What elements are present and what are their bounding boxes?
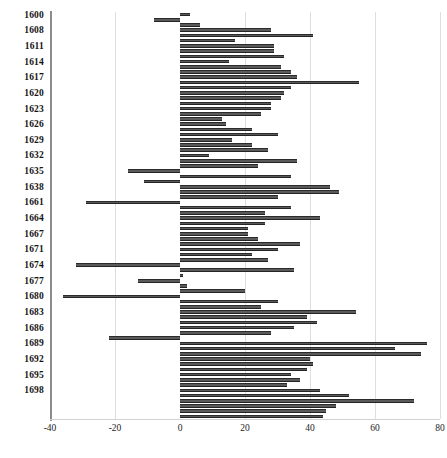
bar [180, 258, 268, 262]
bar [180, 13, 190, 17]
bar [180, 378, 300, 382]
plot-area [50, 12, 440, 419]
bar [180, 185, 330, 189]
y-tick-label-1638: 1638 [24, 182, 44, 192]
y-tick-label-1689: 1689 [24, 338, 44, 348]
x-tick-label--20: -20 [109, 423, 122, 433]
bar [180, 326, 294, 330]
bar [138, 279, 180, 283]
bar [180, 117, 222, 121]
bar [180, 112, 261, 116]
bar [180, 96, 281, 100]
y-tick-label-1695: 1695 [24, 370, 44, 380]
bar [180, 342, 427, 346]
bar [180, 190, 339, 194]
y-tick-label-1686: 1686 [24, 323, 44, 333]
x-tick-label--40: -40 [44, 423, 57, 433]
bar [180, 164, 258, 168]
y-tick-label-1617: 1617 [24, 72, 44, 82]
gridline-80 [440, 12, 441, 419]
bar [180, 305, 261, 309]
bar [180, 91, 284, 95]
bar [180, 274, 183, 278]
bar [180, 222, 265, 226]
bar [180, 122, 226, 126]
bar [180, 242, 300, 246]
bar [180, 175, 291, 179]
bar [180, 75, 297, 79]
bar [180, 70, 291, 74]
bar [180, 44, 274, 48]
bar [76, 263, 180, 267]
bar [180, 154, 209, 158]
y-tick-label-1674: 1674 [24, 260, 44, 270]
bar [180, 227, 248, 231]
x-axis-tick-labels: -40-20020406080 [50, 423, 440, 443]
bar [180, 373, 291, 377]
bar [180, 357, 310, 361]
bar [180, 383, 287, 387]
y-tick-label-1667: 1667 [24, 229, 44, 239]
bar [180, 415, 323, 419]
bar [180, 409, 326, 413]
bar-chart: 1600160816111614161716201623162616291632… [0, 0, 447, 458]
bar [180, 81, 359, 85]
bar [144, 180, 180, 184]
x-tick-label-40: 40 [305, 423, 315, 433]
bar [86, 201, 180, 205]
bar [180, 352, 421, 356]
y-tick-label-1664: 1664 [24, 213, 44, 223]
bar [180, 268, 294, 272]
bar [180, 159, 297, 163]
bar [180, 362, 313, 366]
bar [180, 55, 284, 59]
bar [180, 102, 271, 106]
bar [180, 300, 278, 304]
bar [180, 107, 271, 111]
x-axis-line [50, 419, 440, 420]
bar [180, 23, 200, 27]
y-tick-label-1698: 1698 [24, 385, 44, 395]
bar [180, 315, 307, 319]
x-tick-label-0: 0 [178, 423, 183, 433]
bar [180, 60, 229, 64]
bar [180, 49, 274, 53]
x-tick-label-60: 60 [370, 423, 380, 433]
bar [180, 368, 307, 372]
bar [180, 211, 265, 215]
bar [180, 404, 336, 408]
y-tick-label-1626: 1626 [24, 119, 44, 129]
y-tick-label-1661: 1661 [24, 197, 44, 207]
bar [180, 216, 320, 220]
bar [128, 169, 180, 173]
y-tick-label-1671: 1671 [24, 244, 44, 254]
bar [180, 133, 278, 137]
bar [180, 39, 235, 43]
bar [180, 321, 317, 325]
bar [180, 195, 278, 199]
x-tick-label-20: 20 [240, 423, 250, 433]
y-tick-label-1608: 1608 [24, 25, 44, 35]
bar [180, 28, 271, 32]
y-tick-label-1683: 1683 [24, 307, 44, 317]
bar [180, 248, 278, 252]
bar [180, 143, 252, 147]
y-axis-tick-labels: 1600160816111614161716201623162616291632… [0, 12, 47, 419]
bar [180, 148, 268, 152]
y-tick-label-1620: 1620 [24, 88, 44, 98]
bar [63, 295, 180, 299]
y-tick-label-1629: 1629 [24, 135, 44, 145]
bar [180, 128, 252, 132]
bar [180, 232, 248, 236]
bar [180, 34, 313, 38]
bar [180, 389, 320, 393]
bar [180, 399, 414, 403]
bar [180, 394, 349, 398]
x-tick-label-80: 80 [435, 423, 445, 433]
bar [180, 331, 271, 335]
y-tick-label-1692: 1692 [24, 354, 44, 364]
bar [180, 206, 291, 210]
bar [180, 65, 281, 69]
bar [180, 284, 187, 288]
y-tick-label-1600: 1600 [24, 10, 44, 20]
